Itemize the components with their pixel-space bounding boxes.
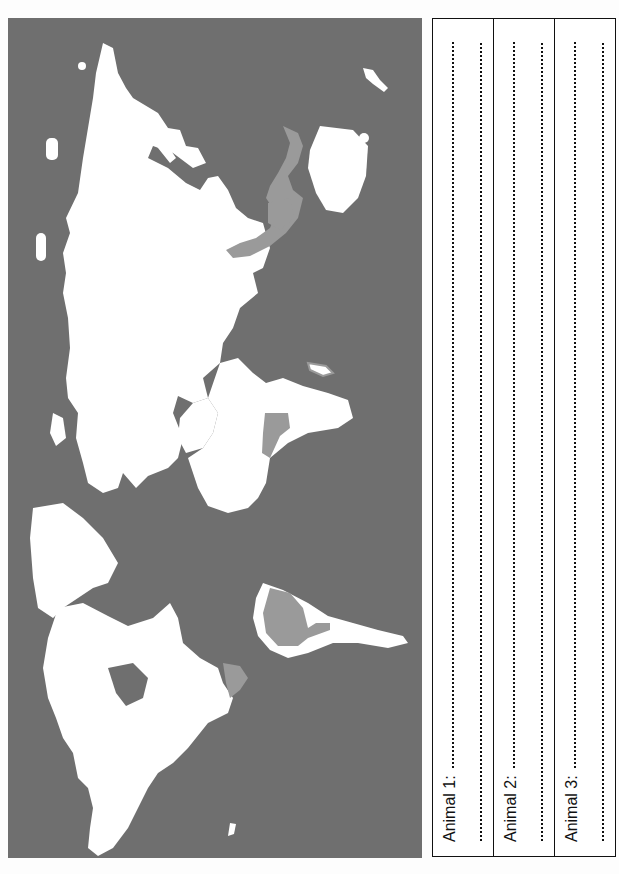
animal-1-answer-line-2[interactable] [471, 42, 487, 842]
island [46, 138, 58, 160]
madagascar-landmass [308, 363, 333, 376]
uk-landmass [50, 413, 66, 446]
animal-2-answer-line[interactable] [500, 42, 516, 769]
animal-3-answer-line[interactable] [561, 42, 577, 769]
north-america-landmass [43, 603, 233, 856]
greenland-landmass [30, 503, 118, 618]
animal-1-label: Animal 1: [441, 775, 459, 842]
new-zealand-landmass [363, 68, 388, 92]
animal-2-label: Animal 2: [502, 775, 520, 842]
island [36, 233, 46, 261]
animal-3-label: Animal 3: [563, 775, 581, 842]
animal-3-answer-line-2[interactable] [593, 42, 609, 842]
world-map [8, 18, 422, 858]
island [359, 133, 369, 143]
answer-row-animal-3[interactable]: Animal 3: [554, 19, 615, 856]
answer-row-animal-2[interactable]: Animal 2: [493, 19, 554, 856]
australia-landmass [308, 126, 368, 213]
animal-2-answer-line-2[interactable] [532, 42, 548, 842]
antarctica-fragment [228, 823, 236, 836]
world-map-graphic [8, 18, 422, 858]
answer-row-animal-1[interactable]: Animal 1: [433, 19, 493, 856]
answer-table: Animal 1: Animal 2: Animal 3: [432, 18, 616, 857]
island [78, 62, 86, 70]
animal-1-answer-line[interactable] [439, 42, 455, 769]
